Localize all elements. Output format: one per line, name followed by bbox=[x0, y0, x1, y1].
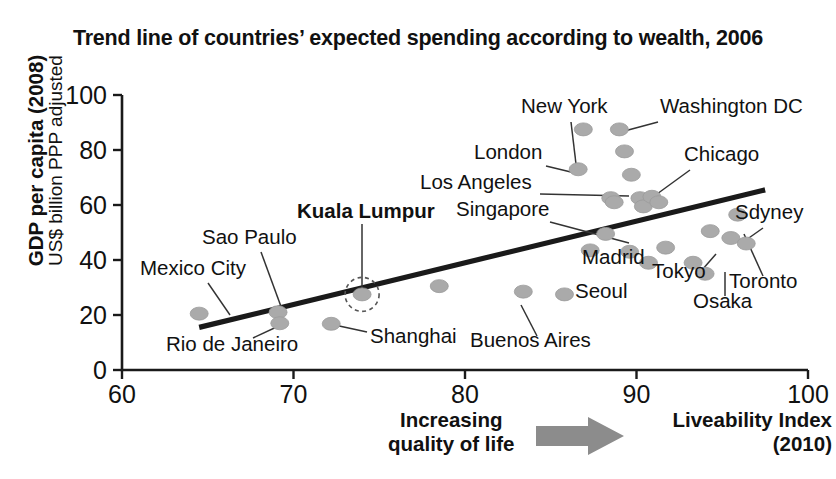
x-axis-caption-left-line2: quality of life bbox=[388, 432, 514, 456]
point-label: Washington DC bbox=[660, 94, 803, 117]
point-label: Buenos Aires bbox=[470, 328, 591, 351]
x-axis-caption-right: Liveability Index (2010) bbox=[646, 408, 832, 456]
data-point bbox=[615, 145, 633, 158]
point-label: Rio de Janeiro bbox=[166, 332, 298, 355]
x-axis-caption-left: Increasing quality of life bbox=[388, 408, 514, 456]
point-label: New York bbox=[521, 94, 608, 117]
x-tick-label: 60 bbox=[108, 380, 136, 408]
data-point bbox=[610, 123, 628, 136]
point-label: Sdyney bbox=[735, 200, 804, 223]
data-point bbox=[701, 225, 719, 238]
point-label: Shanghai bbox=[370, 324, 457, 347]
y-tick-label: 20 bbox=[79, 301, 107, 329]
data-point bbox=[650, 196, 668, 209]
data-point bbox=[271, 317, 289, 330]
point-label: Seoul bbox=[575, 279, 627, 302]
data-point bbox=[737, 237, 755, 250]
leader-line bbox=[657, 170, 690, 194]
data-point bbox=[657, 241, 675, 254]
point-label: Singapore bbox=[456, 197, 549, 220]
x-tick-label: 100 bbox=[787, 380, 829, 408]
x-axis-caption-right-line2: (2010) bbox=[646, 432, 832, 456]
chart-figure: Trend line of countries’ expected spendi… bbox=[0, 0, 836, 479]
point-label: Sao Paulo bbox=[202, 225, 297, 248]
point-label: Osaka bbox=[693, 289, 753, 312]
leader-line bbox=[208, 283, 230, 315]
y-axis-ticks: 020406080100 bbox=[65, 81, 122, 384]
data-point bbox=[430, 280, 448, 293]
data-point bbox=[555, 288, 573, 301]
x-axis-caption-left-line1: Increasing bbox=[388, 408, 514, 432]
point-label: Tokyo bbox=[652, 259, 706, 282]
x-tick-label: 70 bbox=[280, 380, 308, 408]
data-point bbox=[574, 123, 592, 136]
y-tick-label: 0 bbox=[93, 356, 107, 384]
x-axis-caption-right-line1: Liveability Index bbox=[646, 408, 832, 432]
y-tick-label: 80 bbox=[79, 136, 107, 164]
y-tick-label: 60 bbox=[79, 191, 107, 219]
point-label: Kuala Lumpur bbox=[297, 199, 435, 222]
data-point bbox=[322, 317, 340, 330]
y-tick-label: 40 bbox=[79, 246, 107, 274]
point-label: Chicago bbox=[684, 142, 759, 165]
point-label: Mexico City bbox=[140, 256, 247, 279]
data-point bbox=[605, 196, 623, 209]
y-tick-label: 100 bbox=[65, 81, 107, 109]
data-point bbox=[569, 163, 587, 176]
data-point bbox=[190, 307, 208, 320]
x-tick-label: 80 bbox=[451, 380, 479, 408]
x-axis-ticks: 60708090100 bbox=[108, 370, 829, 408]
data-point bbox=[597, 227, 615, 240]
point-label: Los Angeles bbox=[420, 170, 532, 193]
data-point bbox=[353, 288, 371, 301]
point-label: London bbox=[474, 140, 542, 163]
right-arrow-icon bbox=[534, 415, 626, 457]
x-tick-label: 90 bbox=[623, 380, 651, 408]
data-point bbox=[622, 168, 640, 181]
leader-line bbox=[261, 252, 283, 312]
point-label: Toronto bbox=[729, 269, 797, 292]
point-label: Madrid bbox=[582, 245, 645, 268]
data-point bbox=[514, 285, 532, 298]
